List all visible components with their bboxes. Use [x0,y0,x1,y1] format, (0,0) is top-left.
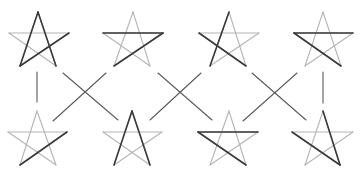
pentagram-bottom-2 [103,111,162,165]
star-edge [229,111,246,165]
star-edge [114,132,162,165]
star-edge-highlighted [292,132,340,165]
pentagram-bottom-3 [198,111,258,165]
pentagram-network-diagram [0,0,364,176]
pentagram-top-4 [294,12,353,66]
star-edge [103,33,150,66]
pentagram-top-3 [199,12,259,66]
star-edge-highlighted [199,33,246,66]
connector-line [53,73,106,121]
star-group [8,12,353,165]
star-edge-highlighted [20,12,38,66]
pentagram-top-1 [9,12,69,66]
pentagram-bottom-4 [292,111,353,165]
star-edge [133,12,150,66]
star-edge [210,111,229,165]
star-edge [305,111,323,165]
connector-line [150,73,201,120]
star-edge [20,111,37,165]
star-edge [9,33,56,66]
star-edge-highlighted [20,33,69,66]
star-edge-highlighted [132,111,150,165]
star-edge [103,132,150,165]
star-edge [229,12,246,66]
star-edge [8,132,56,165]
star-edge [323,12,341,66]
star-edge [210,132,258,165]
connector-lines [37,72,323,121]
connector-line [243,73,297,121]
star-edge-highlighted [114,33,163,66]
pentagram-top-2 [103,12,163,66]
star-edge [305,33,353,66]
star-edge-highlighted [38,12,56,66]
star-edge [114,12,133,66]
pentagram-bottom-1 [8,111,67,165]
connector-line [63,73,118,120]
star-edge-highlighted [323,111,340,165]
star-edge-highlighted [210,12,229,66]
star-edge [305,12,323,66]
star-edge [37,111,56,165]
connector-line [158,73,212,120]
star-edge [305,132,353,165]
star-edge-highlighted [198,132,246,165]
connector-line [252,73,306,120]
star-edge [210,33,259,66]
star-edge-highlighted [294,33,341,66]
star-edge-highlighted [20,132,67,165]
